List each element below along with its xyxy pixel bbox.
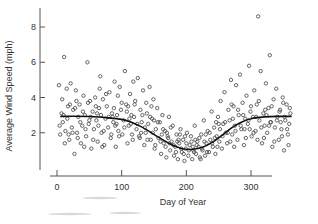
- y-axis-ticks: 2468: [31, 22, 45, 138]
- data-point: [130, 133, 133, 136]
- data-point: [88, 119, 91, 122]
- data-point: [216, 145, 219, 148]
- data-point: [126, 142, 129, 145]
- data-point: [105, 105, 108, 108]
- data-point: [260, 126, 263, 129]
- data-point: [92, 128, 95, 131]
- data-point: [99, 75, 102, 78]
- data-point: [81, 124, 84, 127]
- data-point: [71, 131, 74, 134]
- data-point: [271, 145, 274, 148]
- data-point: [110, 133, 113, 136]
- data-point: [249, 110, 252, 113]
- data-point: [258, 119, 261, 122]
- data-point: [148, 85, 151, 88]
- y-tick-label: 4: [31, 93, 36, 103]
- data-point: [161, 113, 164, 116]
- data-point: [268, 54, 271, 57]
- data-point: [86, 61, 89, 64]
- data-point: [119, 108, 122, 111]
- data-point: [154, 128, 157, 131]
- data-point: [286, 133, 289, 136]
- y-axis-title: Average Wind Speed (mph): [4, 41, 14, 152]
- data-point: [61, 98, 64, 101]
- data-point: [231, 133, 234, 136]
- data-point: [92, 138, 95, 141]
- data-point: [191, 158, 194, 161]
- data-point: [264, 108, 267, 111]
- data-point: [249, 105, 252, 108]
- data-point: [139, 108, 142, 111]
- data-point: [84, 135, 87, 138]
- x-tick-label: 0: [54, 182, 59, 192]
- data-point: [288, 106, 291, 109]
- data-point: [110, 112, 113, 115]
- data-point: [256, 15, 259, 18]
- data-point: [133, 103, 136, 106]
- data-point: [82, 94, 85, 97]
- data-point: [234, 129, 237, 132]
- data-point: [266, 131, 269, 134]
- data-point: [117, 129, 120, 132]
- data-point: [141, 113, 144, 116]
- data-point: [273, 126, 276, 129]
- data-point: [79, 142, 82, 145]
- data-point: [231, 117, 234, 120]
- data-point: [270, 105, 273, 108]
- data-point: [64, 129, 67, 132]
- data-point: [219, 99, 222, 102]
- x-axis-ticks: 0100200300: [54, 170, 258, 192]
- data-point: [164, 145, 167, 148]
- x-tick-label: 300: [243, 182, 258, 192]
- data-point: [120, 101, 123, 104]
- data-point: [131, 138, 134, 141]
- data-point: [272, 98, 275, 101]
- data-point: [198, 136, 201, 139]
- data-point: [181, 138, 184, 141]
- data-point: [58, 124, 61, 127]
- data-point: [59, 133, 62, 136]
- data-point: [285, 103, 288, 106]
- data-point: [135, 128, 138, 131]
- data-point: [84, 128, 87, 131]
- data-point: [288, 122, 291, 125]
- data-point: [218, 140, 221, 143]
- data-point: [275, 87, 278, 90]
- data-point: [174, 150, 177, 153]
- data-point: [212, 126, 215, 129]
- data-point: [248, 128, 251, 131]
- data-point: [78, 103, 81, 106]
- data-point: [246, 122, 249, 125]
- data-point: [99, 113, 102, 116]
- data-point: [141, 89, 144, 92]
- data-point: [159, 152, 162, 155]
- data-point: [286, 128, 289, 131]
- data-point: [169, 149, 172, 152]
- data-point: [282, 101, 285, 104]
- data-point: [81, 110, 84, 113]
- x-tick-label: 100: [114, 182, 129, 192]
- data-point: [190, 140, 193, 143]
- data-point: [95, 112, 98, 115]
- data-point: [280, 128, 283, 131]
- data-point: [74, 89, 77, 92]
- data-point: [115, 113, 118, 116]
- data-point: [152, 98, 155, 101]
- data-point: [90, 147, 93, 150]
- data-point: [83, 145, 86, 148]
- data-point: [97, 124, 100, 127]
- data-point: [257, 99, 260, 102]
- data-point: [172, 154, 175, 157]
- data-point: [143, 143, 146, 146]
- data-point: [242, 143, 245, 146]
- data-point: [267, 124, 270, 127]
- data-point: [189, 135, 192, 138]
- data-point: [132, 115, 135, 118]
- data-point: [66, 117, 69, 120]
- y-tick-label: 2: [31, 128, 36, 138]
- data-point: [277, 138, 280, 141]
- background-smudges: [48, 197, 141, 215]
- data-point: [183, 159, 186, 162]
- data-point: [289, 112, 292, 115]
- data-point: [113, 80, 116, 83]
